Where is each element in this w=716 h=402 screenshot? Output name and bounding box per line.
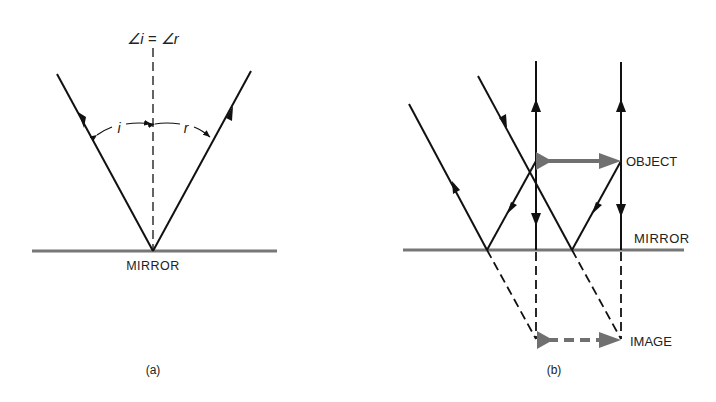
mirror-label-a: MIRROR [126, 259, 180, 273]
arrow-icon-b-4 [592, 202, 602, 214]
arrow-icon-b-1 [452, 181, 460, 194]
virtual-ray-1 [487, 250, 536, 339]
angle-i-arc-right [126, 123, 151, 124]
down-arrow-icon-2 [616, 204, 626, 217]
reflected-ray-a [153, 71, 251, 251]
angle-i-label: i [117, 120, 121, 136]
arrow-icon-b-3 [507, 202, 517, 214]
angle-r-arc [194, 127, 210, 137]
reflected-ray-b-1 [409, 104, 487, 250]
up-arrow-icon-1 [531, 99, 541, 112]
incident-ray-a [57, 74, 153, 251]
equation-label: ∠i = ∠r [127, 30, 179, 47]
caption-a: (a) [146, 363, 161, 377]
mirror-label-b: MIRROR [634, 231, 690, 246]
angle-i-arc [97, 127, 112, 135]
reflection-diagram: i r ∠i = ∠r MIRROR (a) OBJECT [0, 0, 716, 402]
angle-r-arc-left [155, 123, 180, 124]
object-label: OBJECT [626, 154, 677, 169]
panel-a: i r ∠i = ∠r MIRROR (a) [32, 30, 277, 377]
object-tail-icon [536, 152, 552, 170]
up-arrow-icon-2 [616, 99, 626, 112]
angle-r-label: r [184, 120, 190, 136]
image-tail-icon [537, 331, 553, 349]
panel-b: OBJECT IMAGE MIRROR (b) [403, 61, 690, 377]
caption-b: (b) [547, 363, 562, 377]
down-arrow-icon-1 [531, 213, 541, 226]
image-label: IMAGE [630, 334, 672, 349]
virtual-ray-2 [572, 250, 621, 339]
image-head-icon [599, 332, 621, 348]
